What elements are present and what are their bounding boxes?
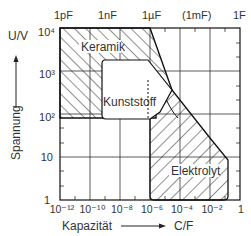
top-label-1f: 1F: [233, 9, 246, 21]
x-tick-1e-12: 10⁻¹²: [50, 203, 75, 215]
y-tick-10e4: 10⁴: [38, 26, 55, 38]
y-tick-labels: 10⁴ 10³ 10² 10 1: [38, 26, 55, 206]
y-tick-10e3: 10³: [39, 68, 55, 80]
x-arrow-icon: [121, 224, 166, 229]
top-axis-labels: 1pF 1nF 1µF (1mF) 1F: [54, 9, 246, 21]
label-elektrolyt: Elektrolyt: [171, 164, 221, 178]
x-tick-1e-2: 10⁻²: [201, 203, 223, 215]
top-label-1mf: (1mF): [182, 9, 211, 21]
x-axis-title: Kapazität: [62, 219, 113, 233]
top-label-1pf: 1pF: [54, 9, 73, 21]
x-tick-labels: 10⁻¹² 10⁻¹⁰ 10⁻⁸ 10⁻⁶ 10⁻⁴ 10⁻² 1: [50, 203, 244, 215]
x-unit-label: C/F: [174, 219, 193, 233]
x-tick-1e-8: 10⁻⁸: [111, 203, 133, 215]
x-tick-1: 1: [238, 203, 244, 215]
x-tick-1e-4: 10⁻⁴: [171, 203, 193, 215]
top-label-1nf: 1nF: [98, 9, 117, 21]
top-label-1uf: 1µF: [142, 9, 161, 21]
y-tick-10e2: 10²: [39, 111, 55, 123]
y-axis-title: Spannung: [9, 105, 23, 160]
x-tick-1e-10: 10⁻¹⁰: [79, 203, 105, 215]
x-tick-1e-6: 10⁻⁶: [141, 203, 163, 215]
y-arrow-icon: [14, 55, 19, 108]
capacitor-range-diagram: Keramik Kunststoff Elektrolyt 1pF 1nF 1µ…: [0, 0, 251, 236]
y-tick-10: 10: [41, 151, 53, 163]
label-kunststoff: Kunststoff: [103, 95, 157, 109]
y-unit-label: U/V: [8, 29, 28, 43]
label-keramik: Keramik: [81, 40, 126, 54]
